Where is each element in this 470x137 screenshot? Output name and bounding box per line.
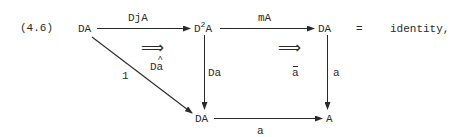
label-diagonal: 1 xyxy=(122,70,129,82)
node-top-mid-rest: A xyxy=(205,23,212,35)
double-arrow-left-icon: ⟹ xyxy=(141,42,164,54)
label-right-vertical: a xyxy=(333,67,340,79)
node-top-mid: D2A xyxy=(194,23,212,36)
label-Da: Da xyxy=(208,67,221,79)
label-bottom: a xyxy=(257,125,264,137)
node-bottom-mid: DA xyxy=(195,113,208,125)
two-cell-right-bar: a xyxy=(292,67,299,79)
two-cell-label-right: a xyxy=(292,67,299,79)
node-bottom-right: A xyxy=(326,113,333,125)
two-cell-left-base: D xyxy=(150,61,157,73)
diagram-arrows xyxy=(0,0,470,137)
node-top-left: DA xyxy=(78,23,91,35)
label-djA: DjA xyxy=(128,12,148,24)
two-cell-label-left: Da xyxy=(150,61,163,73)
label-mA: mA xyxy=(258,12,271,24)
result-text: identity, xyxy=(390,23,449,35)
node-top-right: DA xyxy=(318,23,331,35)
node-top-mid-base: D xyxy=(194,23,201,35)
equation-number: (4.6) xyxy=(20,22,53,34)
two-cell-left-hat: a xyxy=(157,61,164,73)
equals-sign: = xyxy=(356,23,363,35)
double-arrow-right-icon: ⟹ xyxy=(278,42,301,54)
node-top-mid-sup: 2 xyxy=(201,20,206,29)
